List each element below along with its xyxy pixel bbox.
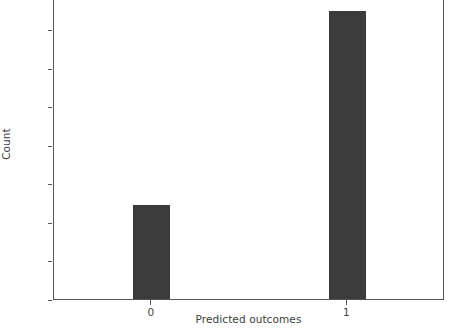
y-axis-label: Count (0, 118, 12, 170)
x-tick-mark (150, 300, 151, 305)
bar (329, 11, 366, 299)
plot-area (53, 0, 444, 300)
y-tick-mark (48, 107, 53, 108)
x-axis-label: Predicted outcomes (53, 313, 444, 325)
y-tick-mark (48, 69, 53, 70)
y-tick-mark (48, 146, 53, 147)
bar (133, 205, 170, 299)
y-tick-mark (48, 184, 53, 185)
bar-chart-figure: Count 02000400060008000100001200014000 0… (0, 0, 455, 330)
y-tick-mark (48, 300, 53, 301)
x-tick-mark (346, 300, 347, 305)
y-tick-mark (48, 30, 53, 31)
y-tick-mark (48, 223, 53, 224)
y-tick-mark (48, 261, 53, 262)
